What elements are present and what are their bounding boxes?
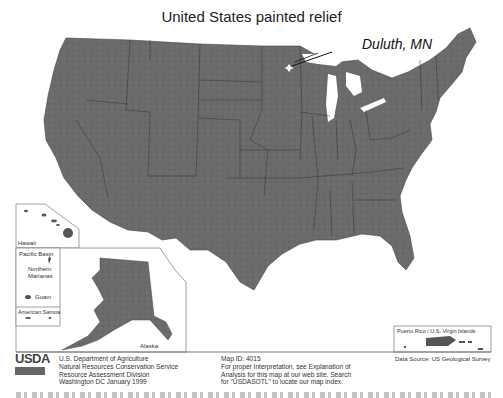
us-relief-map (0, 0, 503, 398)
alaska-label: Alaska (140, 343, 158, 350)
american-samoa-label: American Samoa (18, 309, 60, 315)
map-info: Map ID: 4015 For proper Interpretation, … (221, 355, 351, 386)
usda-logo-bar (15, 367, 45, 375)
agency-line-4: Washington DC January 1999 (59, 378, 178, 386)
agency-line-3: Resource Assessment Division (59, 371, 178, 379)
northern-marianas-label: Northern Marianas (28, 266, 56, 279)
usda-logo: USDA (15, 352, 45, 376)
usda-logo-text: USDA (15, 352, 45, 365)
map-info-line-3: Analysis for this map at our web site. S… (221, 371, 351, 379)
map-id: Map ID: 4015 (221, 355, 351, 363)
agency-line-1: U.S. Department of Agriculture (59, 355, 178, 363)
cropped-caption (16, 392, 496, 398)
puerto-rico-label: Puerto Rico / U.S. Virgin Islands (397, 328, 475, 334)
agency-info: U.S. Department of Agriculture Natural R… (59, 355, 178, 386)
hawaii-label: Hawaii (18, 240, 36, 247)
map-info-line-4: for "USDASOTL" to locate our map index. (221, 378, 351, 386)
data-source: Data Source: US Geological Survey (395, 356, 490, 363)
map-info-line-2: For proper Interpretation, see Explanati… (221, 363, 351, 371)
duluth-callout-label: Duluth, MN (362, 36, 432, 52)
guam-label: Guam (35, 294, 51, 301)
agency-line-2: Natural Resources Conservation Service (59, 363, 178, 371)
pacific-basin-label: Pacific Basin (19, 251, 53, 258)
